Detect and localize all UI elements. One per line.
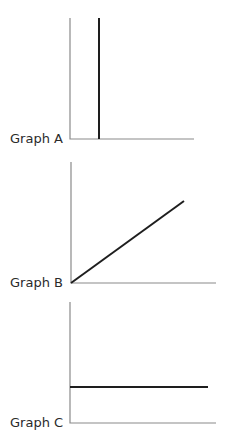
graph-b-increasing-line [71, 201, 184, 283]
graph-c-axes [70, 302, 216, 423]
graph-a-axes [70, 18, 194, 139]
graph-a: Graph A [10, 18, 194, 146]
graphs-figure: Graph A Graph B Graph C [0, 0, 226, 447]
graph-a-label: Graph A [10, 131, 63, 146]
graph-c: Graph C [10, 302, 216, 430]
graph-b: Graph B [10, 162, 216, 290]
graph-b-label: Graph B [10, 275, 63, 290]
graph-c-label: Graph C [10, 415, 63, 430]
graph-b-axes [71, 162, 216, 283]
